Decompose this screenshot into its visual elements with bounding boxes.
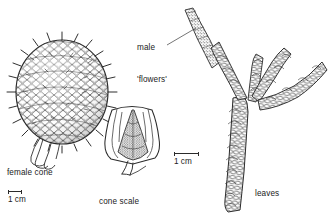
scale-bar-tick-left — [8, 190, 9, 194]
scale-bar-tick-left — [174, 152, 175, 156]
cone-scale-with-seed-drawing — [105, 107, 160, 176]
scale-bar-rule — [8, 191, 22, 192]
male-flowers-drawing — [167, 8, 220, 68]
label-female-cone: female cone — [7, 168, 53, 178]
scale-bar-rule — [174, 153, 199, 154]
female-cone-drawing — [7, 32, 117, 169]
main-stem — [225, 96, 248, 212]
label-cone-scale-with-seed: cone scale with seed — [99, 176, 139, 216]
scale-bar-tick-right — [21, 190, 22, 194]
catkin-body — [185, 8, 220, 68]
scale-bar-tick-right — [198, 152, 199, 156]
scale-bar-caption: 1 cm — [174, 157, 199, 166]
scale-bar-leaves: 1 cm — [174, 152, 199, 166]
scale-bar-caption: 1 cm — [8, 195, 26, 204]
label-male-flowers: male 'flowers' — [137, 22, 167, 107]
left-branch — [211, 42, 247, 100]
scale-bar-line — [8, 190, 22, 194]
label-cone-scale-line1: cone scale — [99, 197, 139, 208]
label-leaves: leaves — [255, 189, 279, 199]
scale-bar-line — [174, 152, 199, 156]
leafy-branch-drawing — [211, 42, 327, 212]
male-flowers-leader-line — [167, 28, 196, 45]
scale-bar-female-cone: 1 cm — [8, 190, 26, 204]
label-male-flowers-line2: 'flowers' — [137, 75, 167, 86]
botanical-figure: female cone cone scale with seed male 'f… — [0, 0, 329, 216]
label-male-flowers-line1: male — [137, 43, 167, 54]
